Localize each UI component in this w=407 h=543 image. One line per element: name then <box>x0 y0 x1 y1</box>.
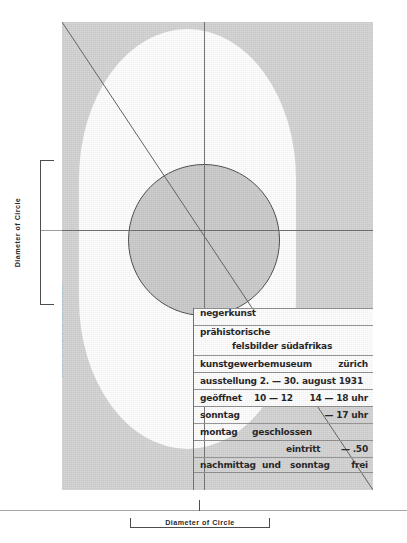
line-nachmittag: nachmittag <box>200 461 256 470</box>
line-sonntag-hours: — 17 uhr <box>325 411 368 420</box>
line-ausstellung-dates: ausstellung 2. — 30. august 1931 <box>200 377 363 386</box>
poster-text-block: negerkunst prähistorische felsbilder süd… <box>193 308 373 490</box>
line-frei: frei <box>351 461 368 470</box>
line-kunstgewerbemuseum: kunstgewerbemuseum <box>200 360 312 369</box>
line-montag: montag <box>200 428 238 437</box>
text-row-venue: kunstgewerbemuseum zürich <box>194 355 373 372</box>
line-felsbilder-suedafrikas: felsbilder südafrikas <box>232 342 332 351</box>
text-row-monday: montag geschlossen <box>194 423 373 440</box>
line-sonntag-2: sonntag <box>290 461 330 470</box>
line-zuerich: zürich <box>338 360 368 369</box>
line-praehistorische: prähistorische <box>200 328 270 337</box>
line-eintritt: eintritt <box>286 445 320 454</box>
text-row-dates: ausstellung 2. — 30. august 1931 <box>194 372 373 389</box>
bottom-diameter-label: Diameter of Circle <box>130 518 270 527</box>
left-diameter-label: Diameter of Circle <box>13 187 22 279</box>
line-geschlossen: geschlossen <box>252 428 312 437</box>
text-row-hours-weekday: geöffnet 10 — 12 14 — 18 uhr <box>194 389 373 406</box>
text-row-title: negerkunst <box>194 308 373 325</box>
poster-credit-text: entwurf: ktt. ofrabi druck: buchdruck zü… <box>62 274 63 378</box>
line-geoeffnet: geöffnet <box>200 394 242 403</box>
poster-diagram-stage: Diameter of Circle Diameter of Circle en… <box>0 0 407 543</box>
text-row-free: nachmittag und sonntag frei <box>194 457 373 473</box>
poster-artwork: entwurf: ktt. ofrabi druck: buchdruck zü… <box>62 22 373 490</box>
line-negerkunst: negerkunst <box>200 309 256 318</box>
text-row-subtitle: prähistorische felsbilder südafrikas <box>194 325 373 355</box>
text-row-hours-sunday: sonntag — 17 uhr <box>194 406 373 423</box>
text-row-admission: eintritt — .50 <box>194 440 373 457</box>
line-hours-afternoon: 14 — 18 uhr <box>309 394 368 403</box>
line-und: und <box>262 461 281 470</box>
line-sonntag: sonntag <box>200 411 240 420</box>
line-eintritt-price: — .50 <box>341 445 368 454</box>
line-hours-morning: 10 — 12 <box>254 394 293 403</box>
horizontal-construction-line <box>62 230 373 231</box>
